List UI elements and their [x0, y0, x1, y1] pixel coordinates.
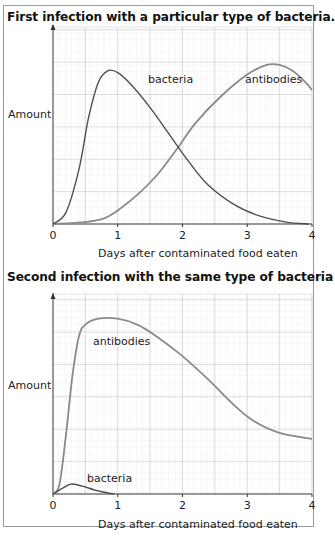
chart1-x-ticks: 01234 — [50, 224, 316, 242]
chart2-grid — [53, 294, 312, 494]
x-tick-label: 0 — [50, 499, 57, 512]
x-tick-label: 4 — [309, 499, 316, 512]
x-tick-label: 3 — [244, 499, 251, 512]
chart2-bacteria-label: bacteria — [87, 472, 132, 485]
chart1-plot: 01234 Amount bacteria antibodies Days af… — [8, 24, 316, 260]
chart1-y-label: Amount — [8, 108, 52, 121]
chart2-y-label: Amount — [8, 379, 52, 392]
chart2-antibodies-label: antibodies — [93, 335, 151, 348]
chart1-grid — [53, 27, 312, 224]
x-tick-label: 2 — [179, 499, 186, 512]
x-tick-label: 1 — [114, 499, 121, 512]
chart2-x-label: Days after contaminated food eaten — [98, 518, 298, 531]
x-tick-label: 1 — [114, 229, 121, 242]
x-tick-label: 0 — [50, 229, 57, 242]
chart1-antibodies-label: antibodies — [245, 73, 303, 86]
chart2-x-ticks: 01234 — [50, 494, 316, 512]
chart1-x-label: Days after contaminated food eaten — [98, 247, 298, 260]
x-tick-label: 3 — [244, 229, 251, 242]
x-tick-label: 2 — [179, 229, 186, 242]
chart1-bacteria-label: bacteria — [148, 73, 193, 86]
x-tick-label: 4 — [309, 229, 316, 242]
chart2-plot: 01234 Amount antibodies bacteria Days af… — [8, 293, 316, 531]
